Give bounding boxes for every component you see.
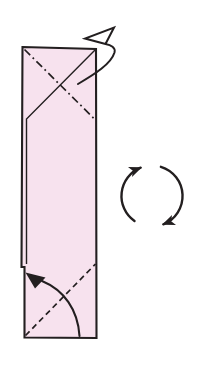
origami-diagram-page	[0, 0, 197, 367]
origami-step-diagram	[0, 0, 197, 367]
folded-paper-shape	[22, 47, 97, 338]
rotate-clockwise-icon-arc-1	[121, 168, 140, 221]
rotate-clockwise-icon-arc-2	[161, 167, 183, 225]
